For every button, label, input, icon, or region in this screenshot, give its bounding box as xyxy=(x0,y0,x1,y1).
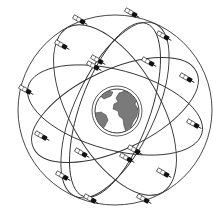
satellite-icon xyxy=(18,85,34,97)
satellite-icon xyxy=(34,131,50,143)
satellite-icon xyxy=(156,168,172,180)
satellite-icon xyxy=(74,148,90,160)
constellation-canvas xyxy=(0,0,213,216)
satellite-icon xyxy=(54,40,70,52)
earth-globe xyxy=(92,86,142,136)
satellite-icon xyxy=(186,119,202,131)
gps-constellation-diagram xyxy=(0,0,213,216)
satellite-icon xyxy=(179,73,195,85)
